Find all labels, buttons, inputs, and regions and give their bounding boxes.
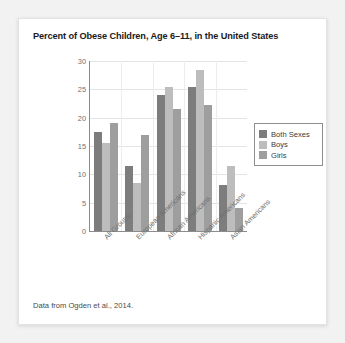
y-axis-tick-label: 5 xyxy=(82,198,86,207)
legend-item: Girls xyxy=(259,151,317,160)
figure-caption: Data from Ogden et al., 2014. xyxy=(33,301,133,310)
legend-swatch-icon xyxy=(259,151,267,159)
y-axis-tick-label: 15 xyxy=(78,142,86,151)
bar xyxy=(102,143,110,231)
chart-plot-wrapper: 051015202530 All GroupsEuropean American… xyxy=(19,19,328,326)
legend-label: Boys xyxy=(271,140,288,149)
bar xyxy=(133,183,141,231)
bar-group xyxy=(90,61,121,231)
bar xyxy=(204,105,212,231)
bar xyxy=(110,123,118,231)
y-axis-tick-label: 10 xyxy=(78,170,86,179)
y-axis-tick-label: 25 xyxy=(78,85,86,94)
legend-label: Both Sexes xyxy=(271,130,310,139)
legend-item: Boys xyxy=(259,140,317,149)
y-axis-tick-label: 30 xyxy=(78,57,86,66)
legend-swatch-icon xyxy=(259,130,267,138)
bar-group xyxy=(121,61,152,231)
y-axis-tick-label: 20 xyxy=(78,113,86,122)
bar xyxy=(173,109,181,231)
bar xyxy=(94,132,102,231)
bar xyxy=(141,135,149,231)
chart-legend: Both SexesBoysGirls xyxy=(254,123,323,166)
figure-card: Percent of Obese Children, Age 6–11, in … xyxy=(18,18,327,325)
legend-item: Both Sexes xyxy=(259,130,317,139)
y-axis-tick-label: 0 xyxy=(82,227,86,236)
legend-label: Girls xyxy=(271,151,287,160)
legend-swatch-icon xyxy=(259,141,267,149)
